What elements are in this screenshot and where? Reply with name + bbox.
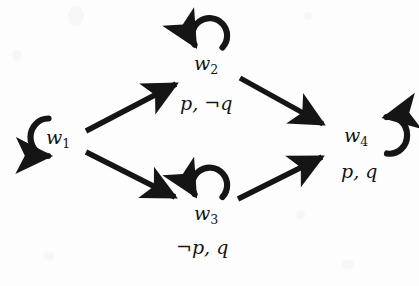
node-label-w3: w3 bbox=[194, 204, 218, 226]
self-loop-w4 bbox=[387, 117, 408, 154]
valuation-w4-text: p, q bbox=[341, 160, 377, 182]
node-label-w3-subscript: 3 bbox=[210, 212, 218, 227]
edge-w2-to-w4 bbox=[240, 78, 323, 124]
node-label-w2-text: w bbox=[194, 52, 210, 74]
valuation-label-w4: p, q bbox=[341, 162, 377, 181]
valuation-label-w2: p, ¬q bbox=[180, 94, 232, 113]
node-label-w4-subscript: 4 bbox=[360, 134, 368, 149]
node-label-w3-text: w bbox=[194, 202, 210, 224]
node-label-w4-text: w bbox=[344, 124, 360, 146]
node-label-w4: w4 bbox=[344, 126, 368, 148]
node-label-w1-subscript: 1 bbox=[62, 136, 70, 151]
edge-w3-to-w4 bbox=[238, 157, 322, 199]
valuation-w2-text: p, ¬q bbox=[180, 92, 232, 114]
edge-w1-to-w2 bbox=[86, 84, 176, 131]
valuation-label-w3: ¬p, q bbox=[176, 238, 228, 257]
diagram-canvas: w1 w2 w3 w4 p, ¬q ¬p, q p, q bbox=[0, 0, 419, 286]
self-loop-w2 bbox=[192, 18, 227, 47]
node-label-w1-text: w bbox=[46, 126, 62, 148]
node-label-w2: w2 bbox=[194, 54, 218, 76]
self-loop-w3 bbox=[192, 168, 227, 197]
edge-w1-to-w3 bbox=[86, 152, 175, 197]
node-label-w1: w1 bbox=[46, 128, 70, 150]
valuation-w3-text: ¬p, q bbox=[176, 236, 228, 258]
node-label-w2-subscript: 2 bbox=[210, 62, 218, 77]
